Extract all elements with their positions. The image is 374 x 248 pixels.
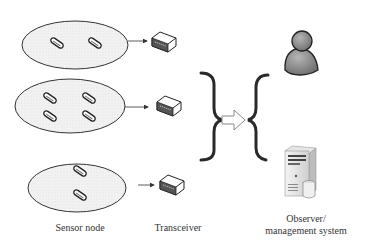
server-icon bbox=[285, 146, 316, 198]
brace-icon bbox=[248, 75, 268, 160]
sensor-node-label: Sensor node bbox=[40, 222, 120, 234]
transceiver-icon bbox=[160, 175, 184, 195]
user-icon bbox=[285, 31, 318, 75]
sensor-cluster-1 bbox=[22, 21, 176, 69]
observer-label-line1: Observer/ bbox=[256, 213, 356, 225]
transceiver-label: Transceiver bbox=[148, 222, 208, 234]
sensor-network-diagram: Sensor node Transceiver Observer/ manage… bbox=[0, 0, 374, 248]
observer-label-line2: management system bbox=[256, 225, 356, 237]
sensor-cluster-2 bbox=[15, 79, 181, 133]
brace-icon bbox=[201, 73, 222, 160]
arrow-right-icon bbox=[222, 110, 245, 130]
sensor-cluster-3 bbox=[28, 164, 184, 212]
transceiver-icon bbox=[152, 32, 176, 52]
transceiver-icon bbox=[157, 96, 181, 116]
